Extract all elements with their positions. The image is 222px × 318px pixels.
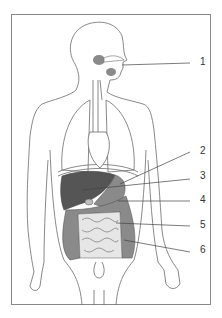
neck-shoulder-left [30, 64, 79, 136]
small-intestine [78, 212, 122, 258]
trachea [100, 80, 102, 100]
label-3: 3 [200, 171, 206, 181]
label-5: 5 [200, 220, 206, 230]
heart [88, 132, 109, 168]
salivary-gland-lower [106, 68, 116, 76]
palate [104, 56, 124, 62]
right-lung [106, 100, 134, 172]
gallbladder [85, 199, 93, 205]
digestive-system-illustration [0, 0, 222, 318]
leader-line-2 [120, 152, 190, 184]
label-2: 2 [200, 146, 206, 156]
left-arm [27, 136, 42, 291]
label-6: 6 [200, 245, 206, 255]
salivary-gland-upper [93, 55, 105, 65]
left-lung [62, 100, 90, 172]
right-arm-inner [148, 160, 164, 270]
label-4: 4 [200, 195, 206, 205]
head-outline [70, 22, 154, 130]
left-arm-inner [42, 160, 48, 272]
label-1: 1 [200, 57, 206, 67]
rectum [94, 262, 104, 278]
legs-inner [94, 290, 104, 305]
leader-line-1 [122, 63, 190, 65]
right-arm [154, 130, 180, 289]
